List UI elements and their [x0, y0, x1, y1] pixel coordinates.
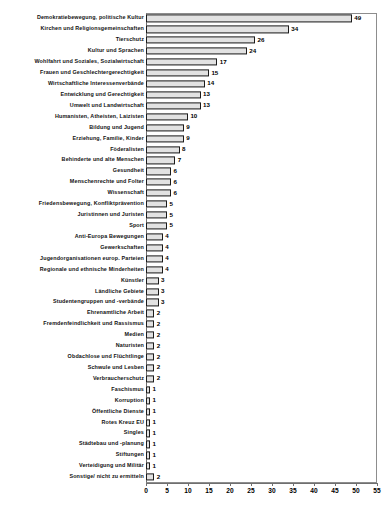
- bar-with-value: 26: [146, 37, 264, 44]
- bar: [146, 397, 150, 404]
- x-axis-tick: [356, 483, 357, 486]
- bar-value-label: 9: [186, 135, 189, 141]
- bar-value-label: 24: [249, 48, 256, 54]
- x-axis-tick: [251, 483, 252, 486]
- category-label: Juristinnen und Juristen: [0, 212, 144, 217]
- bar-with-value: 4: [146, 244, 169, 251]
- category-label: Verbraucherschutz: [0, 376, 144, 381]
- bar-row: Faschismus1: [0, 384, 390, 395]
- bar-value-label: 4: [165, 267, 168, 273]
- bar: [146, 201, 167, 208]
- bar-value-label: 34: [291, 26, 298, 32]
- category-label: Städtebau und -planung: [0, 442, 144, 447]
- category-label: Sport: [0, 223, 144, 228]
- bar: [146, 211, 167, 218]
- bar-value-label: 6: [174, 190, 177, 196]
- bar-row: Rotes Kreuz EU1: [0, 417, 390, 428]
- bar-value-label: 5: [169, 223, 172, 229]
- bar-row: Gewerkschaften4: [0, 242, 390, 253]
- category-label: Entwicklung und Gerechtigkeit: [0, 92, 144, 97]
- bar-value-label: 4: [165, 234, 168, 240]
- bar: [146, 91, 201, 98]
- bar-value-label: 2: [157, 474, 160, 480]
- bar-row: Wohlfahrt und Soziales, Sozialwirtschaft…: [0, 57, 390, 68]
- bar-with-value: 13: [146, 102, 210, 109]
- bar-with-value: 49: [146, 15, 361, 22]
- category-label: Föderalisten: [0, 147, 144, 152]
- bar-row: Obdachlose und Flüchtlinge2: [0, 352, 390, 363]
- bar-with-value: 1: [146, 408, 156, 415]
- bar-with-value: 34: [146, 26, 298, 33]
- bar-row: Umwelt und Landwirtschaft13: [0, 100, 390, 111]
- bar-with-value: 14: [146, 80, 214, 87]
- bar-value-label: 1: [153, 409, 156, 415]
- bar-value-label: 1: [153, 398, 156, 404]
- bar-row: Städtebau und -planung1: [0, 439, 390, 450]
- x-axis-tick: [377, 483, 378, 486]
- bar-row: Juristinnen und Juristen5: [0, 210, 390, 221]
- category-label: Bildung und Jugend: [0, 125, 144, 130]
- bar: [146, 135, 184, 142]
- bar-with-value: 3: [146, 277, 164, 284]
- bar: [146, 80, 205, 87]
- bar: [146, 59, 217, 66]
- bar: [146, 102, 201, 109]
- bar-with-value: 5: [146, 211, 173, 218]
- bar-with-value: 24: [146, 48, 256, 55]
- category-label: Korruption: [0, 398, 144, 403]
- bar-row: Demokratiebewegung, politische Kultur49: [0, 13, 390, 24]
- x-axis-tick-label: 45: [331, 488, 338, 495]
- bar-with-value: 4: [146, 266, 169, 273]
- bar-row: Regionale und ethnische Minderheiten4: [0, 264, 390, 275]
- bar-row: Erziehung, Familie, Kinder9: [0, 133, 390, 144]
- category-label: Verteidigung und Militär: [0, 464, 144, 469]
- x-axis-tick: [188, 483, 189, 486]
- bar-value-label: 6: [174, 168, 177, 174]
- bar-with-value: 5: [146, 201, 173, 208]
- x-axis-tick-label: 30: [268, 488, 275, 495]
- bar-row: Naturisten2: [0, 341, 390, 352]
- category-label: Erziehung, Familie, Kinder: [0, 136, 144, 141]
- bar-value-label: 1: [153, 441, 156, 447]
- bar-value-label: 13: [203, 103, 210, 109]
- category-label: Naturisten: [0, 343, 144, 348]
- bar-with-value: 2: [146, 364, 160, 371]
- x-axis-tick: [146, 483, 147, 486]
- bar: [146, 233, 163, 240]
- bar-row: Humanisten, Atheisten, Laizisten10: [0, 111, 390, 122]
- bar: [146, 474, 154, 481]
- category-label: Obdachlose und Flüchtlinge: [0, 354, 144, 359]
- bar-with-value: 2: [146, 375, 160, 382]
- bar: [146, 146, 180, 153]
- x-axis-tick-label: 35: [289, 488, 296, 495]
- bar-value-label: 26: [258, 37, 265, 43]
- bar-row: Verbraucherschutz2: [0, 373, 390, 384]
- bar-row: Studentengruppen und -verbände3: [0, 297, 390, 308]
- bar-value-label: 8: [182, 146, 185, 152]
- bar-with-value: 8: [146, 146, 185, 153]
- bar-with-value: 1: [146, 441, 156, 448]
- bar-with-value: 4: [146, 255, 169, 262]
- bar: [146, 430, 150, 437]
- bar-value-label: 1: [153, 452, 156, 458]
- bar-row: Friedensbewegung, Konfliktprävention5: [0, 199, 390, 210]
- bar-row: Öffentliche Dienste1: [0, 406, 390, 417]
- category-label: Singles: [0, 431, 144, 436]
- category-label: Ehrenamtliche Arbeit: [0, 311, 144, 316]
- bar-with-value: 2: [146, 474, 160, 481]
- bar-row: Jugendorganisationen europ. Parteien4: [0, 253, 390, 264]
- x-axis-tick-label: 55: [373, 488, 380, 495]
- bar: [146, 190, 171, 197]
- bar-row: Verteidigung und Militär1: [0, 461, 390, 472]
- category-label: Gewerkschaften: [0, 245, 144, 250]
- bar-row: Anti-Europa Bewegungen4: [0, 231, 390, 242]
- bar-value-label: 1: [153, 430, 156, 436]
- bar-row: Behinderte und alte Menschen7: [0, 155, 390, 166]
- category-label: Sonstige/ nicht zu ermitteln: [0, 474, 144, 479]
- bar-with-value: 13: [146, 91, 210, 98]
- bar-value-label: 4: [165, 245, 168, 251]
- bar: [146, 157, 175, 164]
- bar-value-label: 3: [161, 277, 164, 283]
- category-label: Medien: [0, 332, 144, 337]
- category-label: Künstler: [0, 278, 144, 283]
